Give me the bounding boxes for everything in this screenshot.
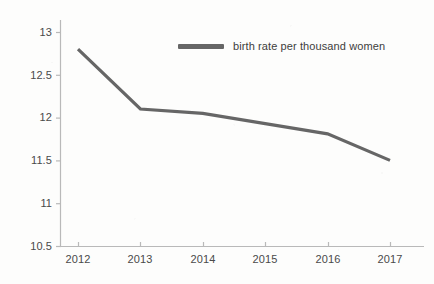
chart-page: 13 12.5 12 11.5 11 10.5 2012 2013 2014 2… (0, 0, 434, 284)
y-tick-label: 12 (12, 111, 52, 123)
y-tick-label: 12.5 (12, 69, 52, 81)
x-tick-label: 2016 (303, 253, 353, 265)
x-tick-label: 2015 (240, 253, 290, 265)
x-tick-label: 2014 (178, 253, 228, 265)
y-tick-label: 11.5 (12, 154, 52, 166)
chart-legend: birth rate per thousand women (178, 40, 385, 52)
y-tick-label: 11 (12, 197, 52, 209)
y-tick-label: 13 (12, 26, 52, 38)
x-tick-label: 2013 (115, 253, 165, 265)
series-line-birth-rate (78, 49, 390, 160)
x-tick-label: 2012 (53, 253, 103, 265)
x-tick-label: 2017 (365, 253, 415, 265)
y-tick-label: 10.5 (12, 240, 52, 252)
legend-swatch-birth-rate (178, 44, 224, 49)
legend-label-birth-rate: birth rate per thousand women (233, 40, 385, 52)
